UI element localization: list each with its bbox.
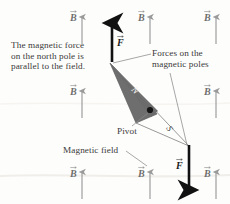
field-symbol: B [138, 12, 145, 23]
force-vector-label-north: F [117, 37, 124, 48]
field-vector-label-bottom-middle: B [138, 168, 145, 179]
force-symbol: F [117, 37, 124, 48]
pivot-label: Pivot [117, 126, 137, 137]
force-vector-label-south: F [176, 160, 183, 171]
paper-texture [0, 0, 230, 204]
field-vector-label-top-middle: B [138, 12, 145, 23]
vector-arrow-icon [204, 83, 211, 88]
vector-arrow-icon [204, 165, 211, 170]
field-vector-label-middle-right: B [204, 86, 211, 97]
field-symbol: B [204, 12, 211, 23]
magnetic-force-note: The magnetic force on the north pole is … [11, 40, 123, 72]
vector-arrow-icon [138, 165, 145, 170]
vector-arrow-icon [176, 157, 183, 162]
field-vector-label-bottom-left: B [70, 168, 77, 179]
field-symbol: B [204, 168, 211, 179]
vector-arrow-icon [138, 9, 145, 14]
field-vector-label-middle-left: B [70, 86, 77, 97]
field-symbol: B [138, 168, 145, 179]
vector-arrow-icon [70, 83, 77, 88]
field-symbol: B [70, 168, 77, 179]
field-symbol: B [70, 86, 77, 97]
pivot-point [147, 107, 153, 113]
field-vector-label-bottom-right: B [204, 168, 211, 179]
vector-arrow-icon [117, 34, 124, 39]
magnetic-torque-figure: N S The magnetic force on the north pole… [0, 0, 230, 204]
field-symbol: B [204, 86, 211, 97]
field-symbol: B [70, 12, 77, 23]
force-symbol: F [176, 160, 183, 171]
vector-arrow-icon [70, 9, 77, 14]
vector-arrow-icon [70, 165, 77, 170]
field-vector-label-top-left: B [70, 12, 77, 23]
figure-canvas: N S [0, 0, 230, 204]
forces-on-poles-label: Forces on the magnetic poles [152, 48, 230, 69]
magnetic-field-label: Magnetic field [63, 145, 118, 156]
field-vector-label-top-right: B [204, 12, 211, 23]
vector-arrow-icon [204, 9, 211, 14]
